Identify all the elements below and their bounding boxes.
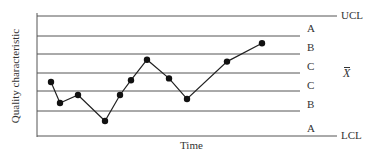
control-chart <box>0 0 379 156</box>
ucl-label: UCL <box>341 9 363 21</box>
y-axis-label: Quality characteristic <box>9 21 21 131</box>
zone-a-upper-label: A <box>307 22 315 34</box>
zone-b-upper-label: B <box>307 41 314 53</box>
data-point <box>259 40 265 46</box>
data-points <box>48 40 265 124</box>
zone-c-lower-label: C <box>307 79 314 91</box>
data-point <box>102 118 108 124</box>
data-series-line <box>51 43 262 121</box>
data-point <box>128 77 134 83</box>
data-point <box>224 58 230 64</box>
data-point <box>117 92 123 98</box>
data-point <box>144 57 150 63</box>
data-point <box>48 79 54 85</box>
zone-c-upper-label: C <box>307 60 314 72</box>
center-line-label: X <box>343 66 350 81</box>
data-point <box>184 96 190 102</box>
data-point <box>75 92 81 98</box>
zone-b-lower-label: B <box>307 98 314 110</box>
zone-lines <box>37 16 337 136</box>
zone-a-lower-label: A <box>307 122 315 134</box>
lcl-label: LCL <box>341 129 362 141</box>
xbar-text: X <box>343 66 350 80</box>
data-point <box>166 75 172 81</box>
data-point <box>57 100 63 106</box>
x-axis-label: Time <box>180 139 203 151</box>
